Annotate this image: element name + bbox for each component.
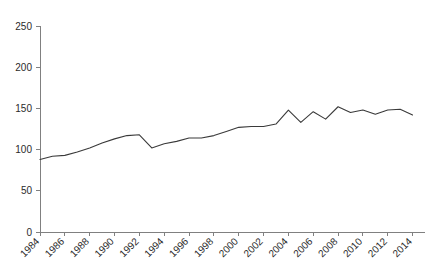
data-series-group [40, 107, 413, 160]
y-tick-label: 100 [15, 144, 32, 155]
y-tick-label: 0 [26, 227, 32, 238]
y-tick-label: 50 [21, 185, 33, 196]
y-axis: 050100150200250 [15, 21, 40, 238]
x-tick-label: 1992 [117, 235, 141, 259]
x-axis: 1984198619881990199219941996199820002002… [18, 232, 425, 259]
y-tick-label: 250 [15, 21, 32, 32]
y-tick-label: 150 [15, 103, 32, 114]
x-tick-label: 2008 [316, 235, 340, 259]
x-tick-label: 2002 [241, 235, 265, 259]
x-tick-label: 1996 [167, 235, 191, 259]
x-tick-label: 2006 [291, 235, 315, 259]
x-tick-label: 1986 [43, 235, 67, 259]
chart-container: 050100150200250 198419861988199019921994… [0, 0, 439, 279]
x-tick-label: 2000 [217, 235, 241, 259]
data-line [40, 107, 413, 160]
x-tick-label: 1998 [192, 235, 216, 259]
line-chart: 050100150200250 198419861988199019921994… [0, 0, 439, 279]
x-tick-label: 2010 [341, 235, 365, 259]
x-tick-label: 2012 [366, 235, 390, 259]
x-tick-label: 1984 [18, 235, 42, 259]
x-tick-label: 1994 [142, 235, 166, 259]
x-tick-label: 1988 [68, 235, 92, 259]
x-tick-label: 2014 [390, 235, 414, 259]
y-tick-label: 200 [15, 62, 32, 73]
x-tick-label: 2004 [266, 235, 290, 259]
x-tick-label: 1990 [92, 235, 116, 259]
